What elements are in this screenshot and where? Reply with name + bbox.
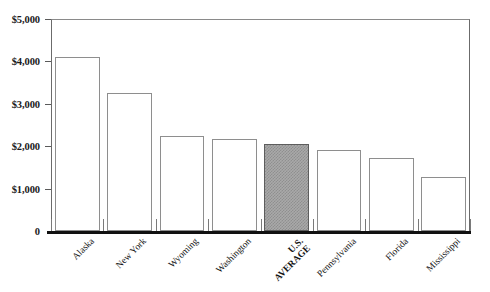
x-tick-label: Wyoming xyxy=(167,236,201,270)
x-tick-mark xyxy=(365,219,366,231)
x-tick-label: U.S.AVERAGE xyxy=(265,236,312,283)
y-tick-mark xyxy=(45,104,51,105)
x-tick-label: Pennsylvania xyxy=(315,236,358,279)
bar-washington xyxy=(212,139,257,231)
x-tick-label: Washington xyxy=(214,236,253,275)
y-tick-mark xyxy=(45,61,51,62)
bar-pennsylvania xyxy=(317,150,362,231)
y-tick-mark xyxy=(45,189,51,190)
y-tick-label: $5,000 xyxy=(12,14,40,25)
bar-chart: $5,000$4,000$3,000$2,000$1,0000 AlaskaNe… xyxy=(0,0,490,292)
x-axis-tick-labels: AlaskaNew YorkWyomingWashingtonU.S.AVERA… xyxy=(51,234,470,292)
x-tick-mark xyxy=(51,219,52,231)
x-tick-mark xyxy=(418,219,419,231)
x-tick-mark xyxy=(103,219,104,231)
y-tick-label: 0 xyxy=(35,226,40,237)
y-tick-label: $4,000 xyxy=(12,56,40,67)
x-tick-label: New York xyxy=(114,236,148,270)
bar-new-york xyxy=(107,93,152,231)
bar-alaska xyxy=(55,57,100,231)
bar-mississippi xyxy=(421,177,466,231)
x-tick-mark xyxy=(208,219,209,231)
x-tick-mark xyxy=(261,219,262,231)
x-tick-mark xyxy=(156,219,157,231)
x-tick-mark xyxy=(313,219,314,231)
bars-layer xyxy=(51,19,470,231)
y-tick-label: $3,000 xyxy=(12,98,40,109)
y-tick-label: $1,000 xyxy=(12,183,40,194)
bar-wyoming xyxy=(160,136,205,231)
x-tick-label: Mississippi xyxy=(425,236,463,274)
y-tick-mark xyxy=(45,19,51,20)
bar-florida xyxy=(369,158,414,231)
y-tick-mark xyxy=(45,146,51,147)
x-tick-mark xyxy=(470,219,471,231)
y-axis-tick-labels: $5,000$4,000$3,000$2,000$1,0000 xyxy=(0,0,44,292)
x-tick-label: Alaska xyxy=(70,236,96,262)
x-tick-label: Florida xyxy=(384,236,410,262)
y-tick-label: $2,000 xyxy=(12,141,40,152)
bar-u-s-average xyxy=(264,144,309,231)
